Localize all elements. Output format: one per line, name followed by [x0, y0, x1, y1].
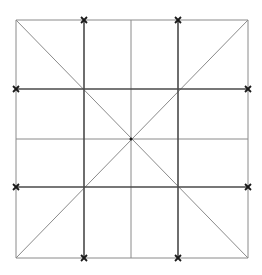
grid-diagram — [0, 0, 262, 275]
center-point — [130, 138, 133, 141]
